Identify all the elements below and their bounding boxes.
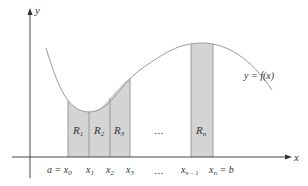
- tick-x1: x1: [85, 164, 94, 177]
- strip-rn: [191, 43, 213, 157]
- tick-xn-1: xn − 1: [180, 164, 199, 176]
- tick-xn: xn = b: [208, 164, 234, 177]
- riemann-diagram: y x y = f(x) R1 R2 R3 Rn ... ... a = x0 …: [0, 0, 308, 186]
- tick-x3: x3: [125, 164, 134, 177]
- ellipsis-axis: ...: [154, 165, 164, 176]
- y-axis-label: y: [34, 4, 40, 16]
- tick-x2: x2: [105, 164, 114, 177]
- tick-x0: a = x0: [47, 164, 72, 177]
- function-curve: [46, 43, 272, 112]
- y-axis-arrow-icon: [28, 8, 33, 15]
- x-axis-arrow-icon: [285, 155, 292, 160]
- x-axis-label: x: [293, 151, 299, 163]
- ellipsis-region: ...: [154, 125, 164, 136]
- curve-label: y = f(x): [243, 70, 275, 82]
